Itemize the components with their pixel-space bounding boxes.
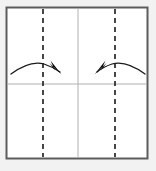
diagram-canvas [0, 0, 156, 171]
panel-interior [7, 8, 148, 159]
folding-diagram-svg [0, 0, 156, 171]
